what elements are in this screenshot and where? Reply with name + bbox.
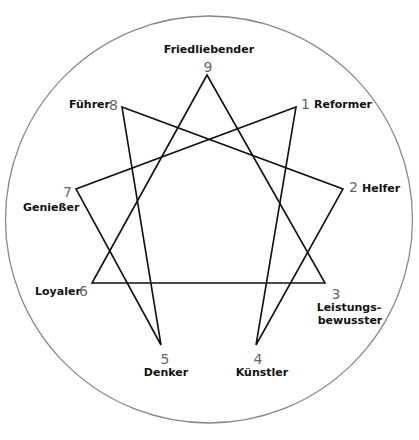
hexad-path [76, 107, 343, 345]
number-7: 7 [63, 184, 72, 200]
number-5: 5 [161, 351, 170, 367]
label-8: Führer [69, 98, 111, 111]
number-2: 2 [349, 179, 358, 195]
number-8: 8 [109, 97, 118, 113]
label-7: Genießer [23, 201, 80, 214]
number-4: 4 [254, 351, 263, 367]
number-3: 3 [332, 286, 341, 302]
label-4: Künstler [236, 366, 289, 379]
label-2: Helfer [362, 182, 401, 195]
label-6: Loyaler [35, 285, 81, 298]
label-3-line2: bewusster [318, 314, 383, 327]
number-9: 9 [204, 59, 213, 75]
label-5: Denker [144, 366, 189, 379]
number-6: 6 [79, 283, 88, 299]
label-9: Friedliebender [164, 43, 255, 56]
label-1: Reformer [314, 98, 373, 111]
inner-triangle [92, 75, 325, 283]
number-1: 1 [301, 96, 310, 112]
enneagram-diagram: Friedliebender 9 1 Reformer 2 Helfer 3 L… [0, 0, 419, 440]
label-3-line1: Leistungs- [317, 301, 382, 314]
